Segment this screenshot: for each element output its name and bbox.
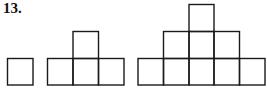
square [99,59,125,86]
square [214,59,240,86]
square [189,5,214,32]
square-pattern-diagram [0,0,267,89]
square [164,59,190,86]
square [164,32,190,59]
figure-1 [8,59,34,86]
figure-3 [138,5,265,86]
figure-2 [48,32,125,86]
square [240,59,266,86]
square [48,59,74,86]
square [8,59,34,86]
square [214,32,240,59]
square [189,59,214,86]
square [73,59,99,86]
square [138,59,164,86]
square [73,32,99,59]
square [189,32,214,59]
